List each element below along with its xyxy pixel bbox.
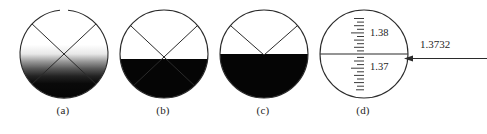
scale-label-lower: 1.37 — [370, 61, 388, 72]
panel-caption-a: (a) — [13, 104, 113, 116]
reading-value: 1.3732 — [420, 38, 450, 50]
panel-caption-d: (d) — [313, 104, 413, 116]
scope-view-d: 1.38 1.37 — [318, 8, 410, 100]
scope-view-b — [118, 8, 210, 100]
reading-annotation: 1.3732 — [404, 38, 487, 72]
field-fill-c — [218, 8, 310, 100]
refractometer-figure: (a) (b) — [0, 0, 487, 134]
scale-label-upper: 1.38 — [370, 27, 388, 38]
field-fill-b — [118, 8, 210, 100]
reading-arrow-icon — [404, 54, 487, 63]
panel-caption-c: (c) — [213, 104, 313, 116]
panel-c: (c) — [213, 0, 313, 134]
scope-view-c — [218, 8, 310, 100]
panel-a: (a) — [13, 0, 113, 134]
panel-b: (b) — [113, 0, 213, 134]
panel-d: 1.38 1.37 (d) — [313, 0, 413, 134]
panel-caption-b: (b) — [113, 104, 213, 116]
scope-view-a — [18, 8, 110, 100]
